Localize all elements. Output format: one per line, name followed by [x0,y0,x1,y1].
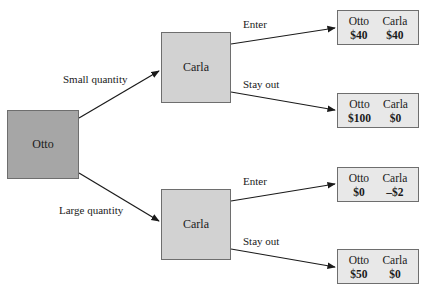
payoff-carla: Carla $0 [383,97,408,125]
payoff-box-2: Otto $100 Carla $0 [337,93,419,128]
label-upper-stay-out: Stay out [243,78,279,90]
payoff-box-3: Otto $0 Carla –$2 [337,167,419,202]
edge-upper-stay-out [231,92,335,110]
player-name: Otto [349,171,369,185]
payoff-otto: Otto $100 [348,97,371,125]
carla-node-upper: Carla [161,32,231,103]
payoff-box-4: Otto $50 Carla $0 [337,249,419,284]
payoff-carla: Carla –$2 [382,171,407,199]
payoff-value: $100 [348,111,371,125]
label-large-quantity: Large quantity [59,204,123,216]
payoff-value: $0 [390,111,402,125]
payoff-value: $50 [350,267,367,281]
edge-lower-stay-out [231,249,335,267]
player-name: Carla [382,253,407,267]
payoff-otto: Otto $0 [349,171,369,199]
label-upper-enter: Enter [243,18,267,30]
payoff-otto: Otto $50 [349,253,369,281]
payoff-value: $40 [386,28,403,42]
payoff-box-1: Otto $40 Carla $40 [337,10,419,45]
edge-upper-enter [231,28,335,44]
payoff-carla: Carla $40 [382,14,407,42]
payoff-value: $0 [389,267,401,281]
label-lower-enter: Enter [243,175,267,187]
label-small-quantity: Small quantity [63,73,127,85]
player-name: Otto [349,253,369,267]
carla-node-lower-label: Carla [183,217,209,232]
carla-node-lower: Carla [161,189,231,260]
payoff-carla: Carla $0 [382,253,407,281]
payoff-value: $0 [353,185,365,199]
player-name: Otto [349,97,369,111]
player-name: Carla [382,171,407,185]
player-name: Carla [382,14,407,28]
root-node-otto: Otto [7,110,79,179]
payoff-otto: Otto $40 [349,14,369,42]
player-name: Otto [349,14,369,28]
label-lower-stay-out: Stay out [243,235,279,247]
payoff-value: –$2 [386,185,403,199]
player-name: Carla [383,97,408,111]
root-node-label: Otto [32,137,53,152]
payoff-value: $40 [350,28,367,42]
carla-node-upper-label: Carla [183,60,209,75]
